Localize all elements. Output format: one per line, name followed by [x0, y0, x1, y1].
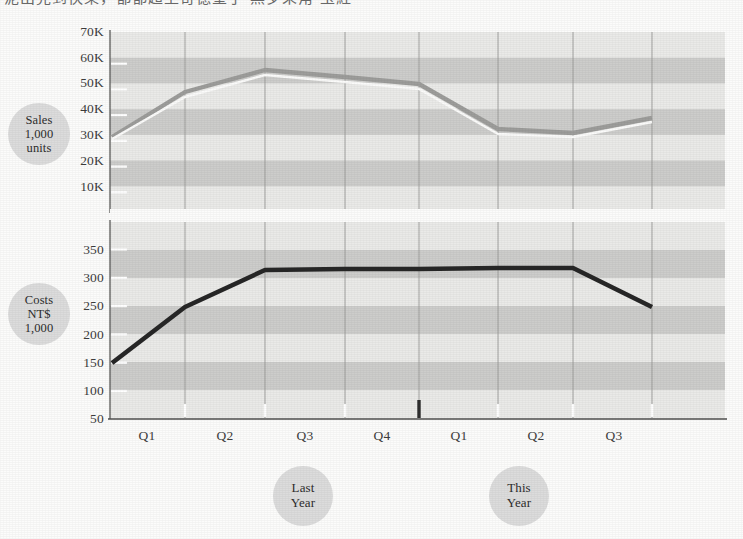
sales-axis-callout: Sales 1,000 units — [8, 103, 70, 165]
this-year-line-1: This — [507, 481, 531, 496]
xtick-label-lastyear-q4: Q4 — [362, 428, 402, 444]
costs-ytick-label-300: 300 — [62, 270, 104, 286]
costs-plot-background — [110, 222, 725, 418]
xtick-label-lastyear-q2: Q2 — [205, 428, 245, 444]
sales-plot — [110, 30, 725, 213]
costs-ytick-label-350: 350 — [62, 242, 104, 258]
costs-callout-line-2: NT$ — [27, 307, 50, 321]
last-year-callout: Last Year — [273, 466, 333, 526]
costs-plot — [108, 220, 727, 419]
sales-ytick-label-20k: 20K — [62, 153, 104, 169]
costs-callout-line-1: Costs — [25, 293, 53, 307]
costs-axis-callout: Costs NT$ 1,000 — [8, 283, 70, 345]
this-year-callout: This Year — [489, 466, 549, 526]
xtick-label-lastyear-q1: Q1 — [127, 428, 167, 444]
last-year-line-1: Last — [292, 481, 315, 496]
dual-line-chart — [0, 0, 743, 539]
sales-ytick-label-10k: 10K — [62, 179, 104, 195]
sales-callout-line-3: units — [27, 141, 52, 155]
xtick-label-thisyear-q3: Q3 — [594, 428, 634, 444]
plot-separator — [110, 209, 725, 218]
costs-ytick-label-100: 100 — [62, 383, 104, 399]
costs-ytick-label-150: 150 — [62, 355, 104, 371]
sales-ytick-label-70k: 70K — [62, 24, 104, 40]
this-year-line-2: Year — [507, 496, 531, 511]
costs-ytick-label-50: 50 — [62, 411, 104, 427]
sales-callout-line-1: Sales — [26, 113, 53, 127]
xtick-label-thisyear-q1: Q1 — [439, 428, 479, 444]
sales-ytick-label-60k: 60K — [62, 50, 104, 66]
costs-ytick-label-200: 200 — [62, 327, 104, 343]
costs-callout-line-3: 1,000 — [25, 321, 54, 335]
xtick-label-lastyear-q3: Q3 — [285, 428, 325, 444]
sales-callout-line-2: 1,000 — [25, 127, 54, 141]
xtick-label-thisyear-q2: Q2 — [516, 428, 556, 444]
sales-ytick-label-40k: 40K — [62, 101, 104, 117]
sales-ytick-label-50k: 50K — [62, 75, 104, 91]
last-year-line-2: Year — [291, 496, 315, 511]
